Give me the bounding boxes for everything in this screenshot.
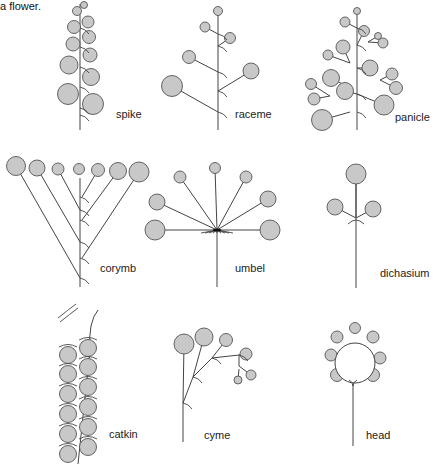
flower-icon <box>331 331 343 343</box>
bract-icon <box>212 358 221 364</box>
flower-icon <box>336 40 350 54</box>
bract-icon <box>218 46 227 52</box>
panel-raceme: raceme <box>162 7 272 131</box>
label-umbel: umbel <box>235 262 265 274</box>
flower-icon <box>346 164 366 184</box>
flower-icon <box>66 37 80 51</box>
flower-icon <box>306 79 317 90</box>
label-head: head <box>366 429 390 441</box>
flower-icon <box>60 446 77 463</box>
bract-icon <box>193 377 202 383</box>
receptacle <box>335 343 375 383</box>
flower-icon <box>60 386 77 403</box>
flower-icon <box>80 359 97 376</box>
flower-icon <box>80 340 97 357</box>
label-raceme: raceme <box>235 108 272 120</box>
panel-cyme: cyme <box>174 328 256 442</box>
panel-spike: spike <box>58 2 142 131</box>
flower-icon <box>243 63 259 79</box>
bract-icon <box>80 258 89 264</box>
flower-icon <box>350 323 361 334</box>
flower-icon <box>225 33 236 44</box>
flower-icon <box>174 171 186 183</box>
label-cyme: cyme <box>204 429 230 441</box>
bract-icon <box>80 115 89 121</box>
flower-icon <box>362 60 378 76</box>
flower-icon <box>220 334 233 347</box>
flower-icon <box>74 164 85 175</box>
bract-icon <box>218 72 227 78</box>
label-dichasium: dichasium <box>380 267 430 279</box>
flower-icon <box>312 110 333 131</box>
flower-icon <box>60 406 77 423</box>
bract-icon <box>80 242 89 248</box>
flower-icon <box>174 334 194 354</box>
flower-icon <box>240 171 252 183</box>
flower-icon <box>327 199 343 215</box>
panel-dichasium: dichasium <box>327 164 430 288</box>
pedicel <box>82 172 139 258</box>
flower-icon <box>354 8 361 15</box>
bract-icon <box>218 112 227 118</box>
flower-icon <box>378 38 388 48</box>
flower-icon <box>83 69 100 86</box>
flower-icon <box>374 352 386 364</box>
label-panicle: panicle <box>395 111 430 123</box>
flower-icon <box>234 376 242 384</box>
flower-icon <box>82 16 94 28</box>
pedicel <box>215 168 217 230</box>
label-spike: spike <box>116 108 142 120</box>
flower-icon <box>386 68 398 80</box>
flower-icon <box>323 70 340 87</box>
flower-icon <box>83 48 97 62</box>
bract-icon <box>183 403 192 409</box>
flower-icon <box>52 163 64 175</box>
pedicel <box>37 168 80 242</box>
bract-icon <box>357 112 366 118</box>
flower-icon <box>60 366 77 383</box>
pedicel <box>180 177 217 230</box>
flower-icon <box>214 7 223 16</box>
flower-icon <box>374 95 394 115</box>
flower-icon <box>80 439 97 456</box>
label-corymb: corymb <box>100 262 136 274</box>
flower-icon <box>323 50 333 60</box>
bract-icon <box>80 220 89 226</box>
flower-icon <box>129 162 149 182</box>
flower-icon <box>367 331 379 343</box>
flower-icon <box>80 379 97 396</box>
flower-icon <box>60 56 78 74</box>
flower-icon <box>80 399 97 416</box>
pedicel <box>58 169 80 210</box>
flower-icon <box>60 426 77 443</box>
panel-corymb: corymb <box>7 157 150 288</box>
flower-icon <box>200 22 210 32</box>
flower-icon <box>149 194 165 210</box>
bract-icon <box>80 87 89 93</box>
flower-icon <box>246 370 256 380</box>
flower-icon <box>260 191 276 207</box>
flower-icon <box>92 164 105 177</box>
flower-icon <box>58 84 79 105</box>
panel-umbel: umbel <box>145 163 280 288</box>
pedicel <box>157 202 217 230</box>
flower-icon <box>337 83 354 100</box>
pedicel <box>16 166 80 278</box>
flower-icon <box>390 82 403 95</box>
flower-icon <box>29 160 45 176</box>
bract-icon <box>357 45 366 51</box>
flower-icon <box>145 220 165 240</box>
flower-icon <box>73 7 82 16</box>
bract-icon <box>80 278 89 284</box>
flower-icon <box>83 31 96 44</box>
flower-icon <box>162 76 183 97</box>
flower-icon <box>210 163 221 174</box>
label-catkin: catkin <box>109 428 138 440</box>
inflorescence-diagram: spikeracemepaniclecorymbumbeldichasiumca… <box>0 0 443 464</box>
flower-icon <box>340 17 350 27</box>
flower-icon <box>195 328 213 346</box>
flower-icon <box>81 2 88 9</box>
flower-icon <box>365 201 381 217</box>
flower-icon <box>80 419 97 436</box>
flower-icon <box>260 220 280 240</box>
